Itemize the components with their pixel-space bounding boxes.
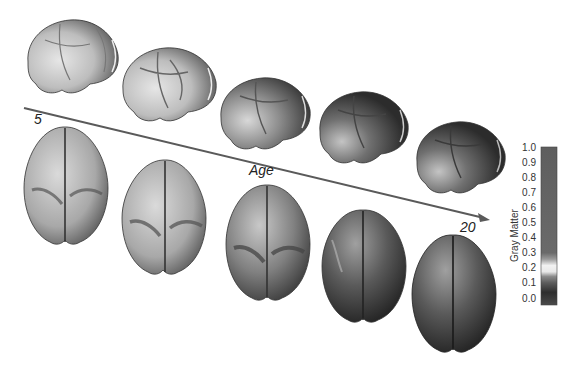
- lateral-brain-4: [320, 92, 408, 163]
- age-axis-label: Age: [249, 162, 274, 178]
- colorbar-tick: 0.1: [510, 277, 536, 288]
- colorbar-tick: 0.9: [510, 157, 536, 168]
- colorbar-title: Gray Matter: [509, 209, 520, 262]
- colorbar-tick: 0.8: [510, 172, 536, 183]
- top-brain-5: [412, 235, 496, 352]
- lateral-brain-2: [123, 48, 216, 121]
- colorbar-tick: 1.0: [510, 142, 536, 153]
- top-brain-2: [122, 160, 206, 274]
- figure-canvas: [0, 0, 579, 365]
- top-brain-1: [24, 127, 108, 244]
- lateral-brain-3: [221, 78, 310, 149]
- colorbar-tick: 0.2: [510, 262, 536, 273]
- age-start-label: 5: [34, 111, 42, 127]
- age-end-label: 20: [460, 219, 476, 235]
- lateral-brain-5: [417, 122, 505, 193]
- lateral-brain-1: [28, 20, 118, 93]
- top-brain-4: [322, 210, 406, 322]
- top-brain-3: [226, 185, 310, 300]
- colorbar-tick: 0.0: [510, 293, 536, 304]
- colorbar: [541, 147, 557, 305]
- colorbar-tick: 0.7: [510, 187, 536, 198]
